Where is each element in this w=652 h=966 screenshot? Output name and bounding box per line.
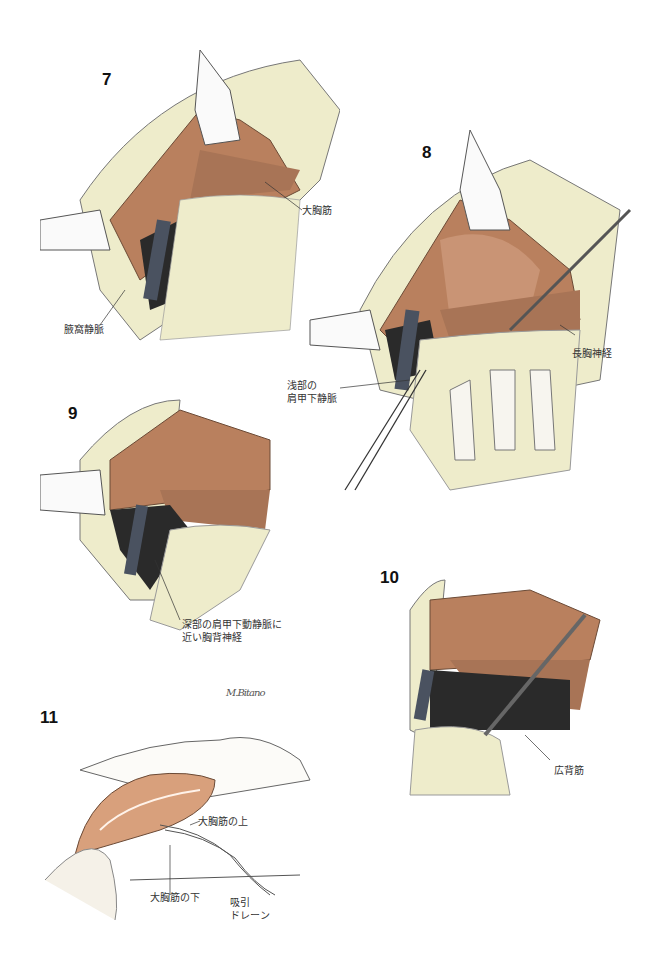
figure-10: 10 広背筋: [370, 560, 630, 810]
label-above-pectoralis: 大胸筋の上: [198, 815, 248, 828]
figure-8-number: 8: [422, 143, 431, 163]
label-drain: ドレーン: [230, 909, 270, 922]
figure-10-number: 10: [380, 568, 399, 588]
label-suction: 吸引: [230, 896, 250, 909]
figure-9: 9 深部の肩甲下動静脈に 近い胸背神経: [40, 380, 340, 660]
figure-7-illustration: [40, 50, 340, 350]
figure-10-illustration: [370, 560, 630, 810]
label-axillary-vein: 腋窩静脈: [64, 323, 104, 336]
figure-7: 7 大胸筋 腋窩静脈: [40, 50, 340, 350]
figure-8: 8 長胸神経 浅部の 肩甲下静脈: [300, 130, 640, 500]
figure-11-number: 11: [40, 708, 58, 728]
figure-9-number: 9: [68, 404, 77, 424]
label-deep-subscapular-nerve-line1: 深部の肩甲下動静脈に: [182, 618, 282, 631]
label-latissimus-dorsi: 広背筋: [554, 764, 584, 777]
label-long-thoracic-nerve: 長胸神経: [572, 347, 612, 360]
figure-7-number: 7: [102, 70, 111, 90]
figure-8-illustration: [300, 130, 640, 500]
figure-11: 11 大胸筋の上 大胸筋の下 吸引 ドレーン: [40, 680, 360, 930]
figure-11-illustration: [40, 680, 360, 930]
label-below-pectoralis: 大胸筋の下: [150, 891, 200, 904]
label-deep-subscapular-nerve-line2: 近い胸背神経: [182, 631, 242, 644]
